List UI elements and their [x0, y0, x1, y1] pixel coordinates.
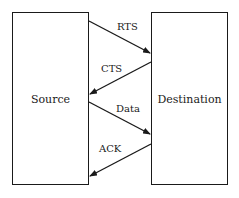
rts-label: RTS	[117, 21, 138, 32]
ack-label: ACK	[99, 143, 121, 154]
cts-label: CTS	[101, 63, 122, 74]
data-label: Data	[116, 103, 140, 114]
